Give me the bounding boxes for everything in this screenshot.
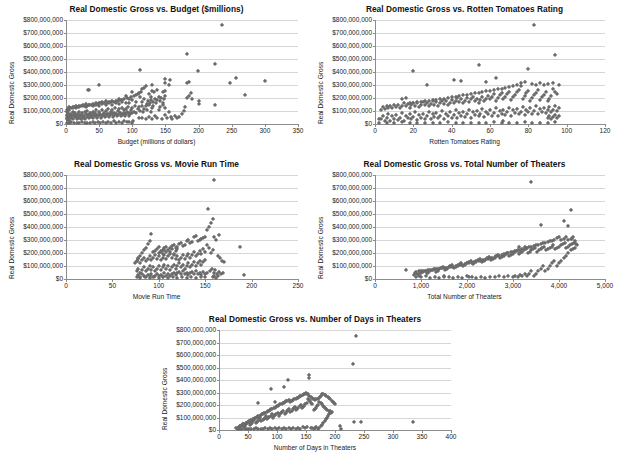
chart-title: Real Domestic Gross vs. Movie Run Time <box>2 159 311 169</box>
data-point <box>351 362 355 366</box>
data-point <box>494 76 498 80</box>
scatter-plot-sheet: { "page": { "background": "#ffffff", "ma… <box>0 0 618 457</box>
data-point <box>459 79 463 83</box>
y-tick-label: $100,000,000 <box>23 263 63 270</box>
data-point <box>520 96 524 100</box>
y-tick-label: $700,000,000 <box>332 30 372 37</box>
data-point <box>203 275 207 279</box>
y-tick-label: $100,000,000 <box>23 108 63 115</box>
data-point <box>482 99 486 103</box>
data-point <box>206 207 210 211</box>
y-axis-label: Real Domestic Gross <box>317 62 324 124</box>
x-tick-label: 20 <box>410 128 417 135</box>
y-tick-label: $100,000,000 <box>176 414 216 421</box>
data-point <box>511 275 515 279</box>
data-point <box>97 83 101 87</box>
data-point <box>526 251 530 255</box>
y-tick-label: $0 <box>365 121 372 128</box>
y-tick-label: $500,000,000 <box>332 211 372 218</box>
y-axis-label: Real Domestic Gross <box>317 217 324 279</box>
data-point <box>86 88 90 92</box>
y-tick-label: $200,000,000 <box>332 95 372 102</box>
data-point <box>256 401 260 405</box>
y-tick-label: $600,000,000 <box>23 43 63 50</box>
x-tick-label: 0 <box>373 283 377 290</box>
y-axis-label: Real Domestic Gross <box>161 368 168 430</box>
y-tick-label: $600,000,000 <box>23 198 63 205</box>
data-point <box>354 334 358 338</box>
y-axis-label: Real Domestic Gross <box>8 217 15 279</box>
data-point <box>243 93 247 97</box>
y-tick-label: $0 <box>56 276 63 283</box>
x-axis-label: Number of Days in Theaters <box>155 444 475 451</box>
data-point <box>213 62 217 66</box>
plot-area: $0$100,000,000$200,000,000$300,000,000$4… <box>375 175 605 279</box>
y-tick-label: $700,000,000 <box>23 30 63 37</box>
plot-area: $0$100,000,000$200,000,000$300,000,000$4… <box>219 330 451 430</box>
data-point <box>568 208 572 212</box>
x-tick-label: 0 <box>373 128 377 135</box>
x-tick-label: 350 <box>417 434 428 441</box>
chart-title: Real Domestic Gross vs. Number of Days i… <box>155 314 475 324</box>
data-point <box>352 420 356 424</box>
data-point <box>502 275 506 279</box>
x-tick-label: 400 <box>446 434 457 441</box>
data-point <box>543 269 547 273</box>
data-point-layer <box>375 175 605 279</box>
data-point <box>532 23 536 27</box>
x-tick-label: 1,000 <box>413 283 429 290</box>
x-tick-label: 150 <box>160 128 171 135</box>
y-tick-label: $800,000,000 <box>332 17 372 24</box>
data-point <box>492 275 496 279</box>
data-point <box>488 274 492 278</box>
data-point <box>411 69 415 73</box>
scatter-chart-days_in_theaters: Real Domestic Gross vs. Number of Days i… <box>155 312 475 457</box>
x-axis-label: Budget (millions of dollars) <box>2 138 311 145</box>
data-point <box>220 23 224 27</box>
data-point <box>228 81 232 85</box>
x-tick-label: 300 <box>259 128 270 135</box>
y-tick-label: $400,000,000 <box>23 224 63 231</box>
x-axis-label: Total Number of Theaters <box>311 293 618 300</box>
x-tick-label: 150 <box>200 283 211 290</box>
y-tick-label: $500,000,000 <box>332 56 372 63</box>
x-axis-line <box>375 279 605 280</box>
data-point <box>155 116 159 120</box>
chart-title: Real Domestic Gross vs. Budget ($million… <box>2 4 311 14</box>
data-point <box>379 107 383 111</box>
x-axis-label: Rotten Tomatoes Rating <box>311 138 618 145</box>
data-point <box>553 53 557 57</box>
y-tick-label: $500,000,000 <box>176 364 216 371</box>
data-point <box>461 101 465 105</box>
data-point-layer <box>66 175 298 279</box>
data-point <box>333 402 337 406</box>
data-point <box>531 274 535 278</box>
data-point <box>188 241 192 245</box>
x-tick-label: 3,000 <box>505 283 521 290</box>
data-point <box>196 69 200 73</box>
data-point <box>138 67 142 71</box>
y-tick-label: $400,000,000 <box>332 224 372 231</box>
data-point <box>507 254 511 258</box>
y-tick-label: $600,000,000 <box>332 43 372 50</box>
x-tick-label: 50 <box>96 128 103 135</box>
data-point <box>446 120 450 124</box>
data-point <box>185 52 189 56</box>
data-point <box>282 384 286 388</box>
data-point <box>529 180 533 184</box>
x-tick-label: 200 <box>193 128 204 135</box>
data-point <box>214 238 218 242</box>
chart-title: Real Domestic Gross vs. Rotten Tomatoes … <box>311 4 618 14</box>
data-point <box>501 119 505 123</box>
plot-area: $0$100,000,000$200,000,000$300,000,000$4… <box>66 175 298 279</box>
data-point <box>311 408 315 412</box>
x-tick-label: 0 <box>64 128 68 135</box>
y-tick-label: $200,000,000 <box>23 95 63 102</box>
data-point <box>446 275 450 279</box>
y-tick-label: $400,000,000 <box>23 69 63 76</box>
data-point <box>196 102 200 106</box>
data-point <box>498 256 502 260</box>
y-tick-label: $200,000,000 <box>332 250 372 257</box>
y-tick-label: $300,000,000 <box>23 82 63 89</box>
data-point <box>196 239 200 243</box>
